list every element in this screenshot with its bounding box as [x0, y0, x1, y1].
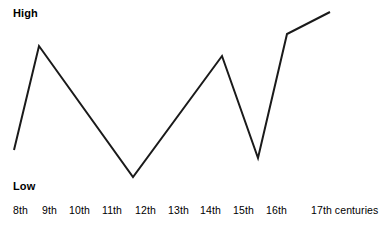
x-axis-tick-12th: 12th [135, 204, 156, 217]
data-line-series [14, 12, 330, 177]
tick-label-text: 8th [13, 204, 28, 216]
y-axis-low-label: Low [13, 180, 35, 192]
tick-label-text: 11th [102, 204, 122, 216]
chart-plot-area [0, 0, 388, 232]
x-axis-tick-13th: 13th [168, 204, 189, 217]
tick-label-text: 10th [69, 204, 90, 216]
tick-label-text: 14th [200, 204, 221, 216]
x-axis-tick-14th: 14th [200, 204, 221, 217]
tick-label-text: 13th [168, 204, 189, 216]
tick-label-text: 16th [266, 204, 287, 216]
tick-label-text: 15th [233, 204, 254, 216]
tick-label-text: 9th [42, 204, 57, 216]
x-axis-tick-labels: 8th9th10th11th12th13th14th15th16th17thce… [0, 204, 388, 218]
x-axis-tick-10th: 10th [69, 204, 90, 217]
tick-label-text: 12th [135, 204, 156, 216]
x-axis-tick-17th: 17thcenturies [311, 204, 378, 217]
x-axis-tick-9th: 9th [42, 204, 57, 217]
x-axis-unit-label: centuries [335, 204, 379, 216]
tick-label-text: 17th [311, 204, 332, 216]
x-axis-tick-16th: 16th [266, 204, 287, 217]
line-chart-figure: High Low 8th9th10th11th12th13th14th15th1… [0, 0, 388, 232]
x-axis-tick-11th: 11th [102, 204, 122, 217]
y-axis-high-label: High [13, 7, 38, 19]
x-axis-tick-15th: 15th [233, 204, 254, 217]
x-axis-tick-8th: 8th [13, 204, 28, 217]
